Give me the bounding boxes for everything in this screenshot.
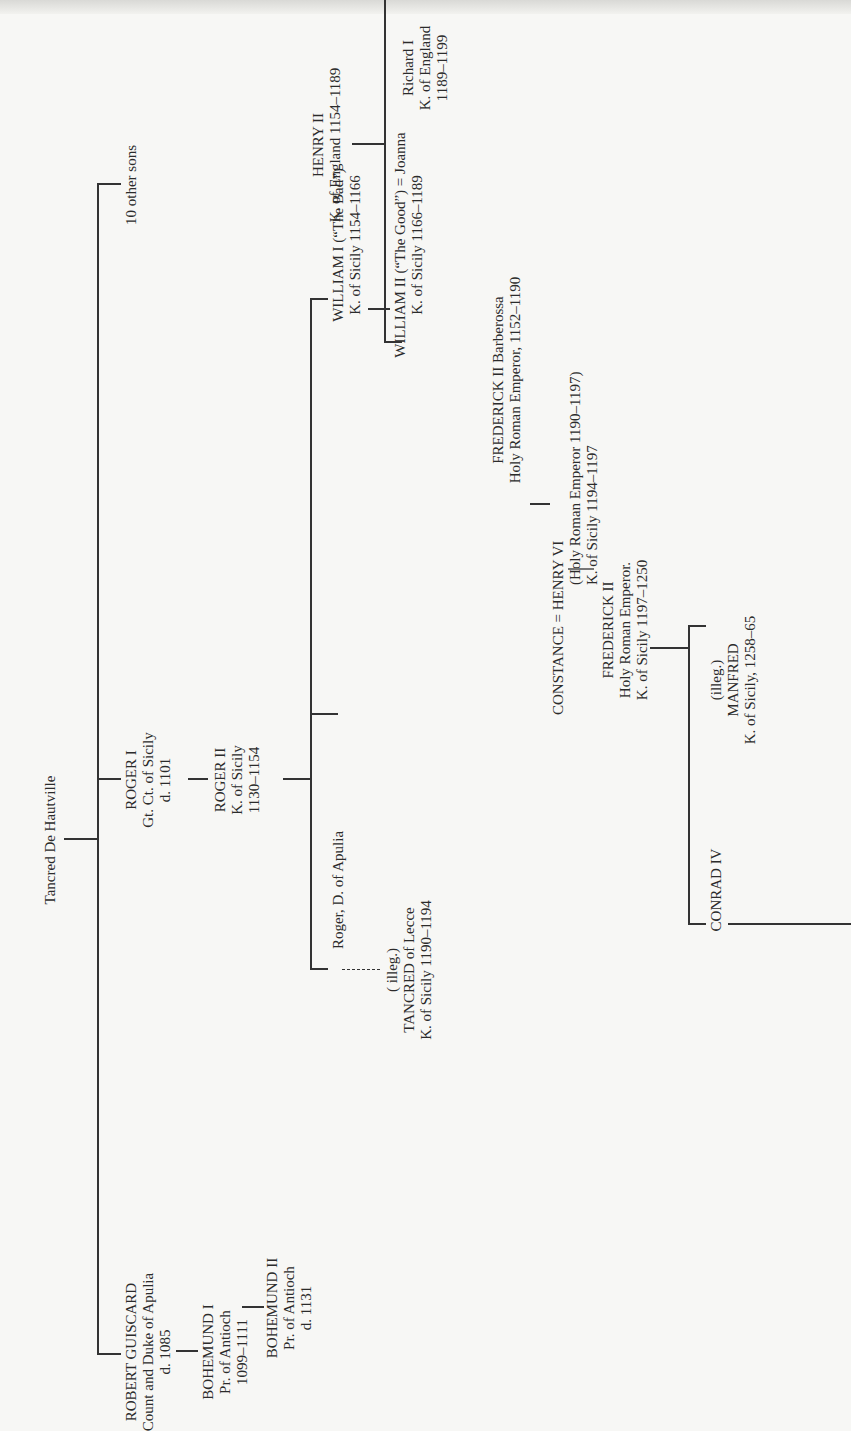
node-manfred: (illeg.) MANFRED K. of Sicily, 1258–65 xyxy=(708,616,759,745)
connector-conrad4-continuation xyxy=(728,923,851,925)
node-title: Holy Roman Emperor, 1152–1190 xyxy=(507,277,524,484)
node-title: Count and Duke of Apulia xyxy=(140,1273,157,1431)
connector-william1-william2 xyxy=(368,308,390,310)
connector-root-stem xyxy=(64,838,97,840)
connector-conrad4 xyxy=(688,923,706,925)
connector-henry2-children-bar xyxy=(384,0,386,343)
node-title: K. of Sicily 1154–1166 xyxy=(347,168,364,322)
node-dates: 1099–1111 xyxy=(234,1304,251,1399)
node-roger-duke-of-apulia: Roger, D. of Apulia xyxy=(330,831,347,949)
node-name: ROGER I xyxy=(123,732,140,827)
node-name: CONSTANCE = HENRY VI xyxy=(550,372,567,715)
node-title: K. of Sicily xyxy=(229,745,246,815)
node-roger-2: ROGER II K. of Sicily 1130–1154 xyxy=(212,745,263,815)
node-name: 10 other sons xyxy=(123,145,140,225)
node-note: (illeg.) xyxy=(708,616,725,745)
connector-joanna xyxy=(384,341,402,343)
node-title: Gt. Ct. of Sicily xyxy=(140,732,157,827)
node-tancred-de-hautville: Tancred De Hautville xyxy=(42,776,59,905)
connector-others xyxy=(97,183,121,185)
node-constance-henry-6: CONSTANCE = HENRY VI (Holy Roman Emperor… xyxy=(550,372,601,715)
node-title: Holy Roman Emperor. xyxy=(617,560,634,700)
connector-barbarossa-henry6 xyxy=(530,503,550,505)
node-name: ROGER II xyxy=(212,745,229,815)
connector-bohemund1-bohemund2 xyxy=(242,1306,264,1308)
node-dates: 1189–1199 xyxy=(434,26,451,111)
node-name: ROBERT GUISCARD xyxy=(123,1273,140,1431)
node-note: ( illeg.) xyxy=(384,900,401,1040)
node-dates: K. of Sicily 1197–1250 xyxy=(634,560,651,700)
connector-roger1 xyxy=(97,778,121,780)
node-roger-1: ROGER I Gt. Ct. of Sicily d. 1101 xyxy=(123,732,174,827)
connector-henry2-stem xyxy=(352,143,384,145)
connector-generation1-bar xyxy=(97,185,99,1355)
node-title: (Holy Roman Emperor 1190–1197) xyxy=(567,372,584,715)
node-name: BOHEMUND I xyxy=(200,1304,217,1399)
node-dates: K. of Sicily 1194–1197 xyxy=(584,372,601,715)
connector-constance-branch xyxy=(310,713,338,715)
node-name: Richard I xyxy=(400,26,417,111)
connector-manfred xyxy=(688,625,706,627)
connector-robert xyxy=(97,1353,121,1355)
connector-robert-bohemund1 xyxy=(176,1350,198,1352)
node-name: Roger, D. of Apulia xyxy=(330,831,347,949)
node-name: FREDERICK II xyxy=(600,560,617,700)
node-title: K. of Sicily 1190–1194 xyxy=(418,900,435,1040)
node-bohemund-2: BOHEMUND II Pr. of Antioch d. 1131 xyxy=(264,1258,315,1358)
node-tancred-of-lecce: ( illeg.) TANCRED of Lecce K. of Sicily … xyxy=(384,900,435,1040)
connector-frederick2-children-bar xyxy=(688,627,690,925)
node-name: TANCRED of Lecce xyxy=(401,900,418,1040)
node-conrad-4: CONRAD IV xyxy=(708,849,725,932)
node-william-2-joanna: WILLIAM II (“The Good”) = Joanna K. of S… xyxy=(392,132,426,357)
node-name: BOHEMUND II xyxy=(264,1258,281,1358)
node-dates: d. 1101 xyxy=(157,732,174,827)
node-robert-guiscard: ROBERT GUISCARD Count and Duke of Apulia… xyxy=(123,1273,174,1431)
connector-roger1-roger2 xyxy=(188,778,208,780)
node-name: HENRY II xyxy=(310,68,327,223)
node-name: CONRAD IV xyxy=(708,849,725,932)
node-henry-2: HENRY II K. of England 1154–1189 xyxy=(310,68,344,223)
connector-roger2-children-bar xyxy=(310,300,312,970)
connector-william1 xyxy=(310,298,328,300)
node-name: MANFRED xyxy=(725,616,742,745)
node-title: K. of Sicily 1166–1189 xyxy=(409,132,426,357)
node-frederick-barbarossa: FREDERICK II Barberossa Holy Roman Emper… xyxy=(490,277,524,484)
node-name: FREDERICK II Barberossa xyxy=(490,277,507,484)
connector-roger-apulia xyxy=(310,968,328,970)
connector-illegitimate-dashed xyxy=(342,969,380,970)
node-richard-1: Richard I K. of England 1189–1199 xyxy=(400,26,451,111)
connector-constance-frederick2 xyxy=(568,568,594,570)
node-title: K. of England 1154–1189 xyxy=(327,68,344,223)
node-frederick-2: FREDERICK II Holy Roman Emperor. K. of S… xyxy=(600,560,651,700)
node-dates: 1130–1154 xyxy=(246,745,263,815)
connector-roger2-stem xyxy=(283,778,310,780)
node-dates: d. 1085 xyxy=(157,1273,174,1431)
node-title: Pr. of Antioch xyxy=(217,1304,234,1399)
node-title: K. of England xyxy=(417,26,434,111)
node-other-sons: 10 other sons xyxy=(123,145,140,225)
node-dates: d. 1131 xyxy=(298,1258,315,1358)
node-name: WILLIAM II (“The Good”) = Joanna xyxy=(392,132,409,357)
node-bohemund-1: BOHEMUND I Pr. of Antioch 1099–1111 xyxy=(200,1304,251,1399)
node-name: Tancred De Hautville xyxy=(42,776,59,905)
node-title: Pr. of Antioch xyxy=(281,1258,298,1358)
node-title: K. of Sicily, 1258–65 xyxy=(742,616,759,745)
connector-frederick2-stem xyxy=(650,647,688,649)
